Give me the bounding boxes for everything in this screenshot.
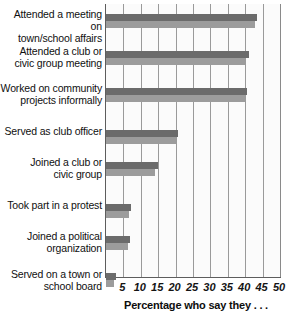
plot-inner (106, 4, 281, 277)
bar-g5-s1 (106, 211, 129, 218)
category-label-joined-club: Joined a club or civic group (0, 156, 102, 180)
x-tick-label-25: 25 (186, 281, 198, 293)
x-tick-label-20: 20 (168, 281, 180, 293)
x-axis-title: Percentage who say they . . . (105, 299, 287, 311)
category-label-attended-meeting: Attended a meeting on town/school affair… (0, 8, 102, 45)
bar-g2-s1 (106, 95, 245, 102)
gridline-45 (263, 4, 264, 277)
bar-g2-s0 (106, 88, 247, 95)
category-label-political-organization: Joined a political organization (0, 230, 102, 254)
gridline-25 (193, 4, 194, 277)
category-label-club-officer: Served as club officer (0, 125, 102, 137)
category-label-school-board: Served on a town or school board (0, 268, 102, 292)
x-tick-label-40: 40 (238, 281, 250, 293)
bar-g0-s0 (106, 14, 257, 21)
bar-g6-s1 (106, 243, 128, 250)
bar-g3-s0 (106, 130, 178, 137)
bar-g6-s0 (106, 236, 130, 243)
horizontal-bar-chart: Attended a meeting on town/school affair… (0, 0, 287, 318)
x-tick-label-5: 5 (119, 281, 125, 293)
x-tick-label-15: 15 (151, 281, 163, 293)
category-label-protest: Took part in a protest (0, 199, 102, 211)
plot-area (105, 4, 281, 278)
bar-g4-s1 (106, 169, 155, 176)
gridline-30 (210, 4, 211, 277)
bar-g7-s0 (106, 273, 116, 280)
x-tick-label-10: 10 (134, 281, 146, 293)
bar-g3-s1 (106, 137, 176, 144)
x-tick-label-35: 35 (221, 281, 233, 293)
bar-g4-s0 (106, 162, 158, 169)
category-label-community-projects: Worked on community projects informally (0, 82, 102, 106)
x-tick-label-50: 50 (273, 281, 285, 293)
bar-g1-s1 (106, 58, 245, 65)
x-tick-label-45: 45 (255, 281, 267, 293)
bar-g0-s1 (106, 21, 255, 28)
bar-g5-s0 (106, 204, 131, 211)
gridline-20 (176, 4, 177, 277)
gridline-40 (245, 4, 246, 277)
category-label-column: Attended a meeting on town/school affair… (0, 0, 102, 278)
gridline-35 (228, 4, 229, 277)
gridline-50 (280, 4, 281, 277)
x-axis-tick-row: 5101520253035404550 (105, 281, 287, 297)
x-tick-label-30: 30 (203, 281, 215, 293)
category-label-attended-club: Attended a club or civic group meeting (0, 45, 102, 69)
bar-g1-s0 (106, 51, 249, 58)
